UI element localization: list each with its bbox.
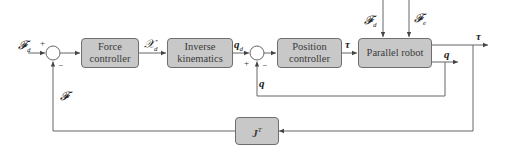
desired-pose-label: 𝒳d — [144, 37, 158, 53]
sum-junction-1 — [46, 46, 60, 60]
jacobian-label: JT — [252, 124, 261, 139]
parallel-robot-block[interactable]: Parallel robot — [358, 38, 432, 68]
sum2-plus-sign: + — [244, 58, 249, 68]
torque-mid-label: τ — [345, 38, 350, 50]
disturbance-e-label: 𝓕e — [414, 11, 426, 27]
parallel-robot-label: Parallel robot — [367, 47, 424, 59]
sum1-minus-sign: − — [58, 60, 63, 70]
sum-junction-2 — [250, 46, 264, 60]
disturbance-d-label: 𝓕d — [364, 13, 377, 29]
force-controller-line2: controller — [90, 53, 131, 64]
desired-force-label: 𝓕d — [18, 38, 31, 54]
force-controller-block[interactable]: Forcecontroller — [81, 38, 139, 68]
sum2-minus-sign: − — [262, 60, 267, 70]
sum1-plus-sign: + — [40, 38, 45, 48]
inverse-kinematics-block[interactable]: Inversekinematics — [167, 38, 233, 68]
desired-joints-label: qd — [234, 38, 243, 53]
joints-feedback-label: q — [259, 77, 265, 89]
position-controller-line1: Position — [292, 41, 326, 52]
position-controller-block[interactable]: Positioncontroller — [277, 38, 342, 68]
jacobian-transpose-block[interactable]: JT — [235, 117, 279, 145]
inverse-kinematics-line2: kinematics — [177, 53, 223, 64]
inverse-kinematics-line1: Inverse — [185, 41, 216, 52]
force-controller-line1: Force — [98, 41, 122, 52]
position-controller-line2: controller — [289, 53, 330, 64]
joints-out-label: q — [444, 48, 450, 60]
torque-out-label: τ — [476, 30, 481, 42]
force-feedback-label: 𝓕 — [60, 89, 69, 104]
